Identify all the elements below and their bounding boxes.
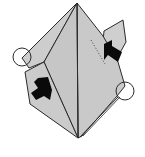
- origami-diagram: [0, 0, 145, 157]
